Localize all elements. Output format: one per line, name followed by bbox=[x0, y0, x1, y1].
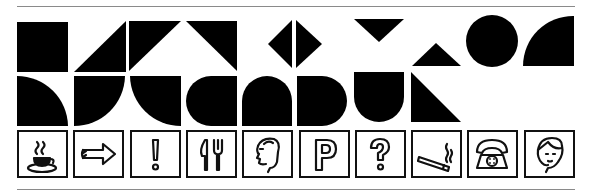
quarter-circle-top-left-shape bbox=[17, 76, 68, 126]
question-mark-icon bbox=[357, 132, 404, 176]
bottom-rule bbox=[17, 189, 575, 190]
diamond-right-half-shape bbox=[296, 20, 322, 68]
pictogram-man-head bbox=[242, 130, 293, 178]
triangle-down-shape bbox=[354, 19, 404, 42]
diamond-left-half-shape bbox=[268, 20, 292, 68]
man-head-icon bbox=[244, 132, 291, 176]
pictogram-arrow-right bbox=[73, 130, 124, 178]
quarter-circle-bottom-right-shape bbox=[130, 76, 181, 126]
triangle-top-left-shape bbox=[129, 21, 181, 71]
triangle-up-shape bbox=[412, 43, 461, 66]
pictogram-knife-fork bbox=[186, 130, 237, 178]
pictogram-parking-p bbox=[299, 130, 350, 178]
rounded-right-block-shape bbox=[297, 76, 347, 126]
triangle-top-right-shape bbox=[186, 21, 237, 71]
quarter-circle-shape bbox=[523, 16, 574, 66]
circle-shape bbox=[466, 15, 518, 67]
arch-shape bbox=[242, 76, 292, 126]
coffee-cup-icon bbox=[19, 132, 66, 176]
arrow-right-icon bbox=[75, 132, 122, 176]
woman-head-icon bbox=[526, 132, 573, 176]
telephone-icon bbox=[469, 132, 516, 176]
pictogram-coffee-cup bbox=[17, 130, 68, 178]
geometric-shapes bbox=[0, 0, 589, 130]
cigarette-icon bbox=[413, 132, 460, 176]
pictogram-cigarette bbox=[411, 130, 462, 178]
u-shape bbox=[354, 72, 404, 122]
quarter-circle-bottom-left-shape bbox=[74, 76, 125, 126]
triangle-bottom-left-shape bbox=[411, 72, 461, 122]
pictogram-exclamation bbox=[130, 130, 181, 178]
square-shape bbox=[17, 22, 68, 72]
knife-fork-icon bbox=[188, 132, 235, 176]
pictogram-question-mark bbox=[355, 130, 406, 178]
pictogram-telephone bbox=[467, 130, 518, 178]
triangle-bottom-right-shape bbox=[74, 21, 126, 72]
rounded-left-block-shape bbox=[186, 76, 237, 126]
exclamation-icon bbox=[132, 132, 179, 176]
pictogram-woman-head bbox=[524, 130, 575, 178]
parking-p-icon bbox=[301, 132, 348, 176]
